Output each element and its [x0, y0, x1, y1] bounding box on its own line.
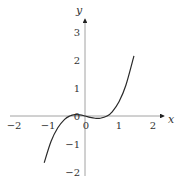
x-tick-labels: −2−1012 — [7, 120, 157, 131]
series-line-f — [44, 56, 134, 163]
y-tick-label: −2 — [65, 167, 80, 178]
x-tick-label: 1 — [116, 120, 122, 131]
x-tick-label: 0 — [83, 120, 89, 131]
y-tick-label: 2 — [74, 55, 80, 66]
y-tick-label: 3 — [74, 27, 80, 38]
x-tick-label: −1 — [41, 120, 56, 131]
chart: −2−1012 −2−10123 x y — [0, 0, 179, 185]
y-tick-label: 1 — [74, 83, 80, 94]
y-tick-labels: −2−10123 — [65, 27, 80, 178]
x-tick-label: −2 — [7, 120, 22, 131]
y-tick-label: −1 — [65, 139, 80, 150]
y-tick-label: 0 — [74, 111, 80, 122]
y-axis-label: y — [75, 4, 83, 17]
x-axis-label: x — [168, 113, 175, 126]
x-tick-label: 2 — [150, 120, 156, 131]
